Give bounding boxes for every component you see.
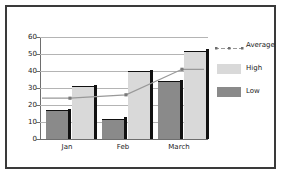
average-line: [42, 69, 204, 98]
chart-legend: Average High Low: [215, 40, 275, 109]
average-marker: [124, 93, 127, 96]
bar-chart: 60 50 40 30 20 10 0: [7, 7, 274, 167]
chart-frame: 60 50 40 30 20 10 0: [5, 5, 276, 169]
average-line-icon: [215, 45, 244, 52]
legend-item-average[interactable]: Average: [215, 40, 275, 52]
legend-item-high[interactable]: High: [215, 63, 275, 75]
x-tick-label-march: March: [149, 143, 209, 151]
legend-label-high: High: [246, 64, 262, 73]
gridline-0: [40, 139, 208, 140]
legend-item-low[interactable]: Low: [215, 86, 275, 98]
legend-label-low: Low: [246, 87, 260, 96]
y-axis-labels: 60 50 40 30 20 10 0: [7, 7, 37, 171]
average-marker: [68, 97, 71, 100]
average-markers: [68, 68, 183, 100]
x-tick-label-feb: Feb: [93, 143, 153, 151]
plot-area: [40, 37, 208, 139]
legend-swatch-low-icon: [217, 87, 241, 97]
legend-swatch-high-icon: [217, 64, 241, 74]
average-line-series: [40, 37, 208, 139]
legend-label-average: Average: [246, 41, 275, 50]
average-marker: [180, 68, 183, 71]
x-tick-label-jan: Jan: [37, 143, 97, 151]
